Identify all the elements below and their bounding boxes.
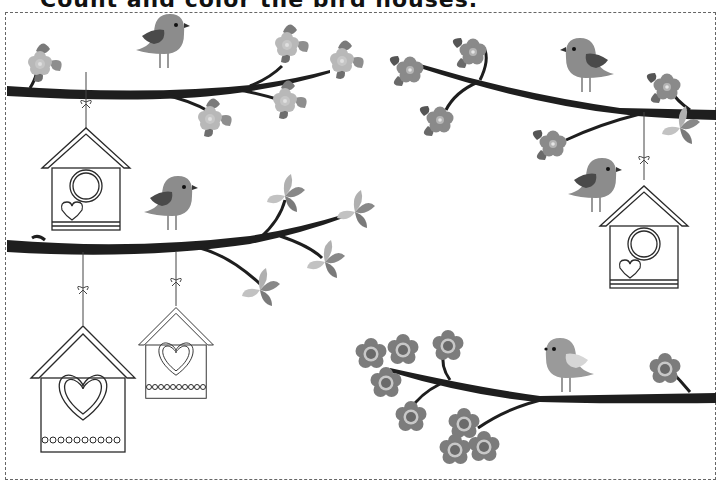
birdhouse-top-left: [42, 128, 130, 230]
bird-4: [144, 176, 198, 230]
bird-1: [136, 14, 190, 68]
birdhouse-large: [31, 326, 135, 452]
birdhouse-right: [600, 186, 688, 288]
bird-2: [560, 38, 614, 92]
bird-5: [544, 338, 594, 392]
bird-3: [568, 158, 622, 212]
illustration: [0, 0, 723, 488]
